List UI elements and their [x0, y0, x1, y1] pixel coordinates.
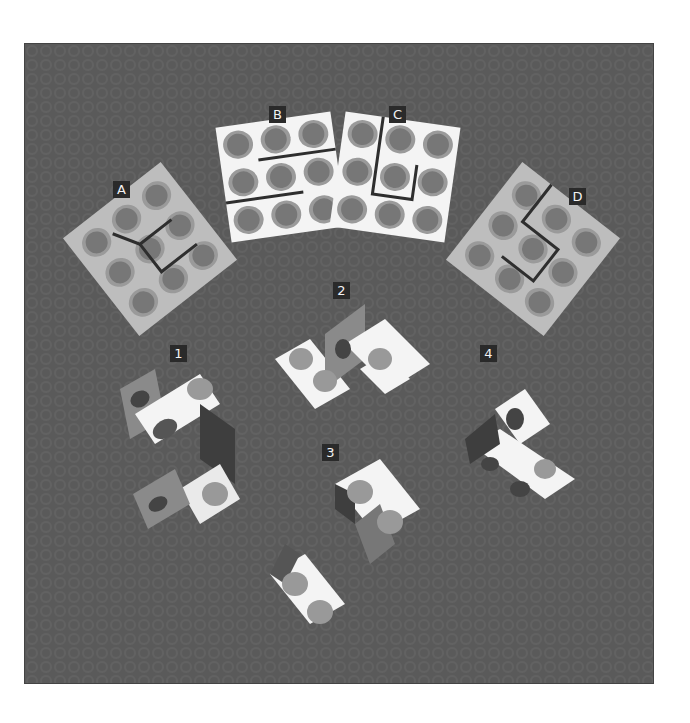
label-3: 3 [322, 444, 339, 461]
svg-text:3: 3 [326, 445, 334, 460]
dot [289, 348, 313, 370]
svg-text:A: A [117, 182, 126, 197]
puzzle-panel: A B C D 1 2 3 4 [24, 43, 654, 684]
dot [368, 348, 392, 370]
puzzle-canvas: A B C D 1 2 3 4 [25, 44, 654, 684]
dot [481, 457, 499, 471]
svg-text:4: 4 [484, 346, 492, 361]
pattern-c [329, 111, 460, 242]
svg-text:1: 1 [174, 346, 182, 361]
dot [510, 481, 530, 497]
label-a: A [113, 181, 130, 198]
svg-text:2: 2 [337, 283, 345, 298]
dot [282, 572, 308, 596]
dot [202, 482, 228, 506]
dot [506, 408, 524, 430]
dot [534, 459, 556, 479]
label-b: B [269, 106, 286, 123]
svg-text:C: C [393, 107, 402, 122]
dot [377, 510, 403, 534]
label-c: C [389, 106, 406, 123]
svg-text:B: B [273, 107, 282, 122]
pattern-b [215, 111, 346, 242]
dot [347, 480, 373, 504]
svg-text:D: D [572, 189, 582, 204]
dot [187, 378, 213, 400]
label-2: 2 [333, 282, 350, 299]
dot-grid [335, 118, 454, 236]
label-4: 4 [480, 345, 497, 362]
dot [335, 339, 351, 359]
label-1: 1 [170, 345, 187, 362]
dot-grid [221, 118, 340, 236]
dot [313, 370, 337, 392]
label-d: D [569, 188, 586, 205]
dot [307, 600, 333, 624]
